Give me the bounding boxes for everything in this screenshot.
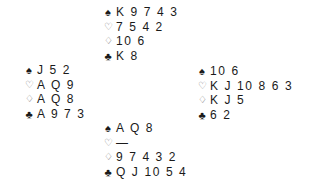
north-spades: K 9 7 4 3: [116, 5, 178, 20]
heart-icon: ♡: [101, 20, 115, 35]
south-spades: A Q 8: [116, 121, 154, 136]
spade-icon: ♠: [101, 121, 115, 136]
heart-icon: ♡: [101, 136, 115, 151]
diamond-icon: ♢: [101, 34, 115, 49]
spade-icon: ♠: [22, 63, 36, 78]
heart-icon: ♡: [195, 79, 209, 94]
heart-icon: ♡: [22, 78, 36, 93]
south-hearts: —: [116, 136, 130, 151]
north-hearts: 7 5 4 2: [116, 20, 164, 35]
east-diamonds: K J 5: [210, 93, 245, 108]
club-icon: ♣: [195, 108, 209, 123]
diamond-icon: ♢: [195, 93, 209, 108]
east-hearts: K J 10 8 6 3: [210, 79, 293, 94]
east-clubs: 6 2: [210, 108, 231, 123]
south-clubs: Q J 10 5 4: [116, 165, 187, 180]
north-clubs: K 8: [116, 49, 139, 64]
spade-icon: ♠: [195, 64, 209, 79]
west-hearts: A Q 9: [37, 78, 75, 93]
diamond-icon: ♢: [101, 150, 115, 165]
south-diamonds: 9 7 4 3 2: [116, 150, 177, 165]
spade-icon: ♠: [101, 5, 115, 20]
club-icon: ♣: [101, 49, 115, 64]
east-spades: 10 6: [210, 64, 240, 79]
club-icon: ♣: [101, 165, 115, 180]
north-diamonds: 10 6: [116, 34, 146, 49]
club-icon: ♣: [22, 107, 36, 122]
west-diamonds: A Q 8: [37, 92, 75, 107]
west-spades: J 5 2: [37, 63, 71, 78]
west-clubs: A 9 7 3: [37, 107, 86, 122]
diamond-icon: ♢: [22, 92, 36, 107]
